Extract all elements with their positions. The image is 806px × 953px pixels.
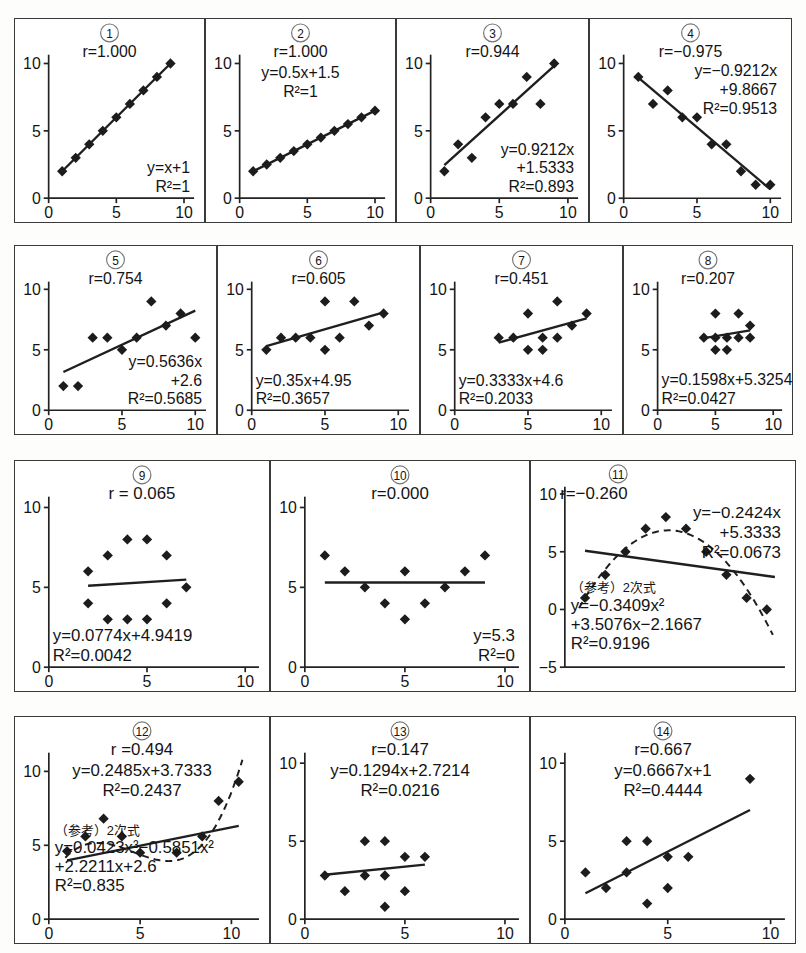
number-label: 11 (612, 468, 625, 482)
axes: 05100510 (23, 55, 194, 221)
data-point (380, 902, 390, 912)
correlation-label-line: r=0.605 (291, 270, 345, 287)
x-tick-label: 5 (400, 925, 409, 942)
data-point (213, 796, 223, 806)
y-tick-label: 0 (32, 659, 41, 676)
y-tick-label: 5 (641, 342, 650, 359)
number-label: 9 (139, 469, 146, 483)
regression-equation-line: y=0.5636x (129, 353, 203, 370)
regression-equation-line: y=0.6667x+1 (614, 761, 711, 780)
x-tick-label: 0 (44, 416, 53, 433)
x-tick-label: 10 (496, 673, 514, 690)
panel-number: 8 (699, 251, 717, 269)
correlation-label-line: r=0.754 (88, 270, 142, 287)
y-tick-label: 5 (414, 123, 423, 140)
regression-equation: y=0.1598x+5.3254R²=0.0427 (662, 371, 792, 407)
data-point (316, 132, 326, 142)
number-label: 6 (315, 254, 322, 268)
y-tick-label: 5 (223, 123, 232, 140)
correlation-label-line: r=0.147 (371, 740, 429, 759)
regression-equation-line: R²=0.0042 (53, 646, 132, 665)
data-point (480, 112, 490, 122)
data-point (722, 345, 732, 355)
regression-equation-line: y=0.0774x+4.9419 (53, 626, 193, 645)
x-tick-label: 10 (175, 204, 193, 221)
panel-number: 5 (107, 251, 125, 269)
panel-number: 6 (310, 251, 328, 269)
correlation-label: r =0.494 (111, 740, 173, 759)
regression-equation-line: R²=0.893 (509, 178, 575, 195)
data-point (535, 99, 545, 109)
number-label: 7 (518, 254, 525, 268)
data-point (122, 614, 132, 624)
y-tick-label: 0 (288, 659, 297, 676)
x-tick-label: 5 (321, 416, 330, 433)
regression-equation-line: R²=0.2033 (459, 390, 534, 407)
data-point (661, 512, 671, 522)
chart-panel-1: 051005101r=1.000y=x+1R²=1 (14, 18, 205, 223)
data-point (710, 308, 720, 318)
y-tick-label: 5 (32, 123, 41, 140)
regression-equation-line: R²=0.0427 (662, 390, 736, 407)
chart-panel-4: 051005104r=−0.975y=−0.9212x+9.8667R²=0.9… (589, 18, 792, 223)
regression-equation-line: +1.5333 (516, 159, 574, 176)
regression-equation: y=x+1R²=1 (147, 159, 190, 195)
regression-equation-line: +2.6 (171, 372, 202, 389)
correlation-label: r=0.754 (88, 270, 142, 287)
regression-equation-line: y=0.3333x+4.6 (459, 372, 564, 389)
data-point (642, 898, 652, 908)
correlation-label: r=0.451 (494, 270, 548, 287)
data-point (580, 867, 590, 877)
data-point (131, 333, 141, 343)
y-tick-label: 10 (23, 499, 41, 516)
chart-panel-12: 0510051012r =0.494y=0.2485x+3.7333R²=0.2… (14, 716, 270, 944)
number-label: 8 (705, 254, 712, 268)
panel-number: 10 (391, 466, 409, 484)
data-point (343, 119, 353, 129)
number-label: 2 (297, 27, 304, 41)
chart-panel-8: 051005108r=0.207y=0.1598x+5.3254R²=0.042… (623, 245, 793, 435)
regression-equation-line: y=0.9212x (501, 141, 575, 158)
data-point (537, 333, 547, 343)
data-point (380, 598, 390, 608)
regression-equation-line: +9.8667 (719, 81, 777, 98)
panel-number: 13 (391, 722, 409, 740)
regression-equation-line: y=−0.2424x (693, 504, 782, 523)
data-points (320, 550, 490, 624)
correlation-label-line: r=0.207 (681, 270, 735, 287)
correlation-label: r = 0.065 (109, 484, 176, 503)
y-tick-label: 10 (405, 55, 423, 72)
panel-number: 11 (609, 465, 627, 483)
chart-svg-2: 051005102r=1.000y=0.5x+1.5R²=1 (206, 19, 395, 222)
data-point (248, 166, 258, 176)
y-tick-label: 0 (32, 190, 41, 207)
data-point (58, 381, 68, 391)
regression-equation-line: R²=0.0673 (702, 543, 781, 562)
data-point (508, 333, 518, 343)
panel-number: 12 (133, 722, 151, 740)
data-point (73, 381, 83, 391)
correlation-label-line: r=0.000 (371, 484, 429, 503)
data-point (642, 836, 652, 846)
data-point (102, 333, 112, 343)
data-point (380, 836, 390, 846)
y-tick-label: 0 (32, 911, 41, 928)
data-point (681, 524, 691, 534)
regression-equation-line: R²=1 (155, 178, 190, 195)
y-tick-label: 10 (598, 55, 616, 72)
data-point (523, 345, 533, 355)
axes: 05100510 (598, 55, 781, 221)
x-tick-label: 0 (560, 925, 569, 942)
y-tick-label: 5 (32, 837, 41, 854)
correlation-label-line: r =0.494 (111, 740, 173, 759)
x-tick-label: 10 (762, 925, 780, 942)
panel-number: 4 (682, 24, 700, 42)
y-tick-label: 10 (539, 486, 557, 503)
data-point (467, 153, 477, 163)
chart-panel-7: 051005107r=0.451y=0.3333x+4.6R²=0.2033 (420, 245, 623, 435)
x-tick-label: 10 (559, 204, 577, 221)
data-point (733, 308, 743, 318)
data-point (745, 320, 755, 330)
data-point (356, 112, 366, 122)
correlation-label-line: r=1.000 (273, 43, 327, 60)
